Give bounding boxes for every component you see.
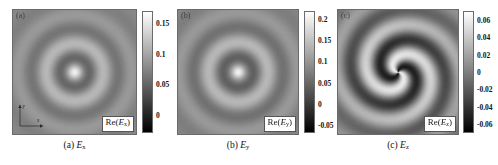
colorbar-a-gradient — [143, 12, 152, 132]
colorbar-tick: 0.2 — [318, 15, 327, 24]
caption-c-sub: z — [406, 143, 409, 150]
caption-c-tag: (c) — [387, 140, 398, 150]
colorbar-tick: 0.1 — [156, 49, 165, 58]
field-label-ez-prefix: Re( — [428, 117, 441, 127]
colorbar-c-gradient — [464, 12, 473, 132]
colorbar-tick: 0.05 — [156, 80, 169, 89]
panel-c-tag: (c) — [341, 11, 350, 20]
colorbar-b: 0.20.150.10.050-0.05 — [304, 11, 315, 133]
caption-b-tag: (b) — [227, 140, 238, 150]
field-label-ey: Re(Ey) — [264, 116, 297, 132]
colorbar-tick: -0.04 — [477, 102, 493, 111]
colorbar-tick: 0.1 — [318, 57, 327, 66]
colorbar-tick: -0.06 — [477, 120, 493, 129]
colorbar-tick: 0.04 — [477, 33, 490, 42]
field-label-ez-suffix: ) — [449, 117, 452, 127]
colorbar-tick: 0.15 — [156, 19, 169, 28]
panel-c: (c) Re(Ez) — [337, 9, 459, 135]
caption-a-sub: x — [82, 143, 85, 150]
axis-indicator-a: y x — [18, 104, 44, 128]
colorbar-tick: 0 — [477, 68, 481, 77]
field-label-ex-suffix: ) — [127, 117, 130, 127]
colorbar-tick: -0.02 — [477, 85, 493, 94]
colorbar-b-gradient — [305, 12, 314, 132]
colorbar-c-ticks: 0.060.040.020-0.02-0.04-0.06 — [474, 11, 498, 133]
colorbar-tick: 0 — [156, 110, 160, 119]
caption-a-tag: (a) — [64, 140, 75, 150]
caption-c: (c) Ez — [337, 140, 459, 150]
colorbar-tick: 0.15 — [318, 36, 331, 45]
field-label-ey-prefix: Re( — [268, 117, 281, 127]
field-label-ex-prefix: Re( — [106, 117, 119, 127]
caption-b: (b) Ey — [177, 140, 299, 150]
figure-root: (a) y x Re(Ex) 0.150.10.050 (a) Ex ( — [0, 0, 498, 165]
panel-b: (b) Re(Ey) — [177, 9, 299, 135]
caption-a: (a) Ex — [12, 140, 137, 150]
axis-x-label: x — [37, 117, 39, 123]
colorbar-tick: 0.05 — [318, 78, 331, 87]
colorbar-b-strip — [304, 11, 315, 133]
panel-b-tag: (b) — [181, 11, 190, 20]
colorbar-tick: 0.06 — [477, 15, 490, 24]
field-label-ex: Re(Ex) — [102, 116, 135, 132]
caption-b-sub: y — [246, 143, 249, 150]
colorbar-a-strip — [142, 11, 153, 133]
colorbar-a: 0.150.10.050 — [142, 11, 153, 133]
panel-a: (a) y x Re(Ex) — [12, 9, 137, 135]
panel-a-tag: (a) — [16, 11, 25, 20]
colorbar-c: 0.060.040.020-0.02-0.04-0.06 — [463, 11, 474, 133]
field-label-ey-suffix: ) — [289, 117, 292, 127]
axis-y-label: y — [23, 103, 25, 109]
colorbar-tick: -0.05 — [318, 120, 334, 129]
colorbar-tick: 0.02 — [477, 50, 490, 59]
colorbar-tick: 0 — [318, 99, 322, 108]
field-label-ez: Re(Ez) — [424, 116, 456, 132]
colorbar-c-strip — [463, 11, 474, 133]
